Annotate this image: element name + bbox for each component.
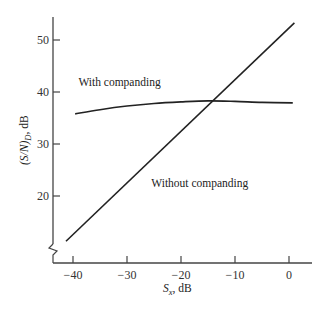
without-companding-line <box>66 23 294 241</box>
y-tick-label: 50 <box>37 33 49 47</box>
with-companding-curve <box>75 101 293 114</box>
x-tick-label: −10 <box>226 268 245 282</box>
snr-vs-signal-chart: 20304050 −40−30−20−100 With companding W… <box>0 0 325 309</box>
without-companding-label: Without companding <box>151 177 248 190</box>
y-tick-label: 40 <box>37 85 49 99</box>
x-tick-label: −30 <box>118 268 137 282</box>
x-axis-title: Sx, dB <box>163 282 192 297</box>
x-tick-label: 0 <box>286 268 292 282</box>
y-ticks: 20304050 <box>37 33 60 203</box>
x-ticks: −40−30−20−100 <box>64 256 292 282</box>
axis-break-icon <box>49 244 57 263</box>
y-axis <box>49 17 57 263</box>
x-tick-label: −20 <box>172 268 191 282</box>
x-tick-label: −40 <box>64 268 83 282</box>
with-companding-label: With companding <box>78 76 161 89</box>
y-tick-label: 30 <box>37 137 49 151</box>
y-tick-label: 20 <box>37 189 49 203</box>
y-axis-title: (S/N)D, dB <box>18 115 33 165</box>
